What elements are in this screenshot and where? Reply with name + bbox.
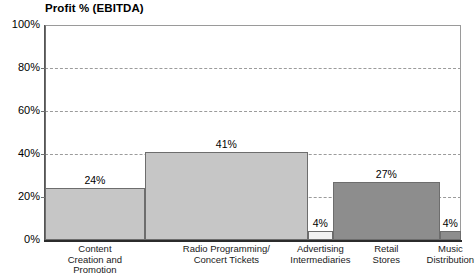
x-axis-line	[44, 240, 462, 242]
value-label-4: 4%	[440, 218, 461, 229]
value-label-1: 41%	[145, 139, 308, 150]
y-axis-label-80: 80%	[0, 62, 40, 73]
gridline-60	[45, 111, 461, 112]
category-label-4: Music Distribution	[406, 244, 476, 265]
profit-ebitda-bar-chart: Profit % (EBITDA) 0%20%40%60%80%100% 24%…	[0, 0, 476, 278]
value-label-0: 24%	[45, 175, 145, 186]
y-axis-label-40: 40%	[0, 148, 40, 159]
chart-title: Profit % (EBITDA)	[45, 1, 144, 15]
y-tick-mark-40	[41, 154, 46, 155]
gridline-80	[45, 68, 461, 69]
bar-4	[440, 231, 461, 240]
bar-0	[45, 188, 145, 240]
y-tick-mark-80	[41, 68, 46, 69]
bar-2	[308, 231, 333, 240]
y-axis-label-20: 20%	[0, 191, 40, 202]
y-tick-mark-60	[41, 111, 46, 112]
value-label-3: 27%	[333, 169, 440, 180]
bar-1	[145, 152, 308, 240]
bar-3	[333, 182, 440, 240]
value-label-2: 4%	[308, 218, 333, 229]
y-axis-label-100: 100%	[0, 19, 40, 30]
y-axis-label-60: 60%	[0, 105, 40, 116]
